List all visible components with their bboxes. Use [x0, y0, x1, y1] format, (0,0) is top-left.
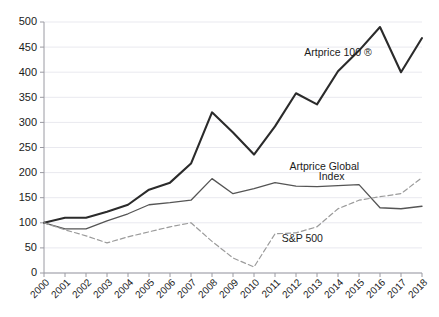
- y-tick-label: 300: [19, 116, 37, 128]
- y-tick-label: 450: [19, 41, 37, 53]
- y-tick-label: 0: [31, 266, 37, 278]
- x-tick-label: 2013: [301, 276, 325, 300]
- y-tick-label: 250: [19, 141, 37, 153]
- y-tick-label: 100: [19, 216, 37, 228]
- y-tick-label: 200: [19, 166, 37, 178]
- y-tick-label: 350: [19, 91, 37, 103]
- x-tick-label: 2003: [91, 276, 115, 300]
- series-line-1: [44, 179, 422, 229]
- sp500-label: S&P 500: [282, 232, 323, 244]
- x-tick-label: 2014: [322, 276, 346, 300]
- y-axis-tick-labels: 050100150200250300350400450500: [19, 15, 37, 278]
- gridlines: [44, 22, 422, 273]
- y-tick-label: 150: [19, 191, 37, 203]
- series-annotations: Artprice 100 ®Artprice GlobalIndexS&P 50…: [282, 46, 372, 244]
- x-tick-label: 2005: [133, 276, 157, 300]
- line-chart: 050100150200250300350400450500 200020012…: [0, 0, 439, 317]
- x-tick-label: 2018: [406, 276, 430, 300]
- x-tick-label: 2001: [49, 276, 73, 300]
- axes: [40, 22, 422, 277]
- x-tick-label: 2002: [70, 276, 94, 300]
- x-tick-label: 2009: [217, 276, 241, 300]
- x-tick-label: 2008: [196, 276, 220, 300]
- x-tick-label: 2010: [238, 276, 262, 300]
- artprice-global-index-label-2: Index: [319, 170, 345, 182]
- x-tick-label: 2007: [175, 276, 199, 300]
- x-axis-tick-labels: 2000200120022003200420052006200720082009…: [28, 276, 430, 300]
- x-tick-label: 2016: [364, 276, 388, 300]
- y-tick-label: 400: [19, 66, 37, 78]
- x-tick-label: 2006: [154, 276, 178, 300]
- x-tick-label: 2004: [112, 276, 136, 300]
- x-tick-label: 2015: [343, 276, 367, 300]
- x-tick-label: 2012: [280, 276, 304, 300]
- y-tick-label: 50: [25, 241, 37, 253]
- x-tick-label: 2000: [28, 276, 52, 300]
- x-tick-label: 2017: [385, 276, 409, 300]
- x-tick-label: 2011: [259, 276, 282, 299]
- artprice-100-label: Artprice 100 ®: [304, 46, 372, 58]
- y-tick-label: 500: [19, 15, 37, 27]
- chart-container: 050100150200250300350400450500 200020012…: [0, 0, 439, 317]
